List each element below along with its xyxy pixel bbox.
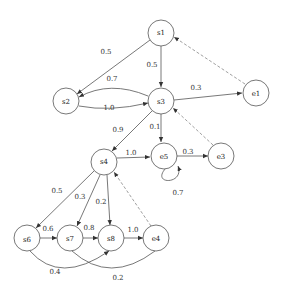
svg-text:s2: s2	[62, 98, 70, 106]
node-s2: s2	[53, 88, 79, 114]
svg-text:e1: e1	[252, 90, 261, 98]
node-s4: s4	[91, 149, 117, 175]
svg-text:s4: s4	[100, 158, 109, 166]
node-s1: s1	[148, 20, 174, 46]
edge-s3-s2	[79, 88, 148, 97]
label-s3-s4: 0.9	[112, 126, 123, 134]
svg-text:e5: e5	[160, 153, 169, 161]
svg-text:e3: e3	[217, 153, 226, 161]
edge-s3-e1	[174, 93, 242, 100]
svg-text:s1: s1	[157, 29, 165, 37]
svg-text:e4: e4	[152, 235, 161, 243]
label-s4-s6: 0.5	[51, 187, 62, 195]
node-s6: s6	[14, 225, 40, 251]
edge-s1-s2	[77, 40, 150, 94]
edge-e4-s4	[114, 172, 151, 226]
label-s4-e5: 1.0	[125, 149, 136, 157]
label-s3-s2: 0.7	[106, 75, 117, 83]
label-s3-e5: 0.1	[149, 123, 160, 131]
svg-text:s3: s3	[157, 98, 165, 106]
svg-text:s7: s7	[66, 235, 74, 243]
label-s4-s7: 0.3	[74, 193, 85, 201]
label-s2-s3: 1.0	[103, 104, 114, 112]
node-s7: s7	[57, 225, 83, 251]
node-s8: s8	[98, 225, 124, 251]
node-e4: e4	[143, 225, 169, 251]
label-s8-e4: 1.0	[127, 226, 138, 234]
node-s3: s3	[148, 88, 174, 114]
label-s3-e1: 0.3	[190, 84, 201, 92]
label-s1-s3: 0.5	[146, 61, 157, 69]
label-s6-s7: 0.6	[42, 225, 54, 233]
label-s1-s2: 0.5	[100, 48, 111, 56]
label-e5-loop: 0.7	[172, 189, 183, 197]
edge-s4-s8	[107, 175, 110, 225]
edge-s4-e5	[117, 157, 150, 158]
label-s4-s8: 0.2	[95, 198, 106, 206]
node-e3: e3	[208, 143, 234, 169]
label-e5-e3: 0.3	[182, 148, 193, 156]
node-e5: e5	[151, 143, 177, 169]
label-s6-s8: 0.4	[49, 268, 61, 276]
svg-text:s8: s8	[107, 235, 115, 243]
label-s7-e4: 0.2	[112, 274, 123, 282]
label-s7-s8: 0.8	[83, 224, 94, 232]
nodes: s1 s2 s3 e1 s4 e5 e3 s6	[14, 20, 269, 251]
svg-text:s6: s6	[23, 236, 32, 244]
node-e1: e1	[243, 80, 269, 106]
state-diagram: 0.5 0.5 0.7 1.0 0.3 0.9 0.1 1.0 0.3 0.7 …	[0, 0, 282, 296]
edge-e1-s1	[174, 37, 245, 84]
edge-s7-e4	[72, 251, 155, 268]
edge-e3-s3	[173, 108, 213, 145]
